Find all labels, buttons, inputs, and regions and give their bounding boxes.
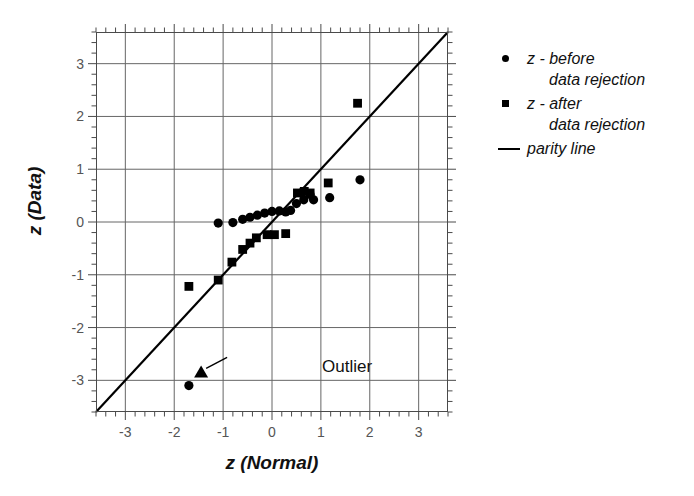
legend: z - before data rejection z - after data… — [497, 48, 687, 162]
plot-area: -3-2-10123-3-2-10123 Outlier — [96, 32, 448, 412]
legend-item-before[interactable]: z - before data rejection — [497, 48, 687, 90]
x-tick-label: 0 — [268, 424, 276, 440]
x-tick-label: 2 — [366, 424, 374, 440]
y-tick-label: 3 — [52, 56, 84, 72]
y-axis-title: z (Data) — [24, 91, 46, 311]
y-tick-label: -1 — [52, 267, 84, 283]
outlier-annotation-label: Outlier — [322, 357, 372, 377]
x-axis-title: z (Normal) — [96, 452, 448, 474]
legend-item-after[interactable]: z - after data rejection — [497, 93, 687, 135]
y-tick-label: -3 — [52, 372, 84, 388]
legend-label-after: z - after data rejection — [527, 93, 645, 135]
legend-label-parity-line: parity line — [527, 138, 595, 159]
y-tick-label: -2 — [52, 320, 84, 336]
x-tick-label: -2 — [168, 424, 180, 440]
y-tick-label: 1 — [52, 161, 84, 177]
x-tick-label: 3 — [415, 424, 423, 440]
line-marker-icon — [497, 138, 527, 159]
x-tick-label: 1 — [317, 424, 325, 440]
legend-label-before: z - before data rejection — [527, 48, 645, 90]
axis-tick-layer — [96, 32, 448, 412]
y-tick-label: 2 — [52, 108, 84, 124]
x-tick-label: -1 — [217, 424, 229, 440]
x-tick-label: -3 — [119, 424, 131, 440]
circle-marker-icon — [497, 48, 527, 69]
scatter-plot-figure: -3-2-10123-3-2-10123 Outlier z (Normal) … — [0, 0, 694, 496]
square-marker-icon — [497, 93, 527, 114]
legend-item-parity-line[interactable]: parity line — [497, 138, 687, 159]
y-tick-label: 0 — [52, 214, 84, 230]
